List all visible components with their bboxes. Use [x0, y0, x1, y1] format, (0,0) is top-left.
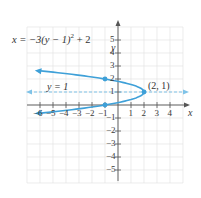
tick-label: 1	[129, 109, 134, 118]
tick-label: 2	[110, 74, 115, 83]
tick-label: −3	[106, 139, 116, 148]
tick-label: 3	[155, 109, 160, 118]
tick-label: 4	[168, 109, 173, 118]
vertex-label: (2, 1)	[148, 80, 170, 91]
tick-label: −6	[33, 109, 43, 118]
y-axis-label: y	[111, 43, 115, 53]
tick-label: −1	[106, 113, 116, 122]
parabola-graph	[0, 0, 201, 198]
tick-label: −2	[106, 126, 116, 135]
tick-label: −4	[106, 152, 116, 161]
tick-label: 3	[110, 61, 115, 70]
symmetry-line-label: y = 1	[47, 81, 68, 92]
equation-label: x = −3(y − 1)2 + 2	[12, 32, 91, 45]
x-axis-label: x	[188, 108, 192, 118]
tick-label: −5	[106, 165, 116, 174]
tick-label: −4	[59, 109, 69, 118]
tick-label: −3	[72, 109, 82, 118]
tick-label: 2	[142, 109, 147, 118]
tick-label: −5	[46, 109, 56, 118]
tick-label: −2	[85, 109, 95, 118]
tick-label: 1	[110, 87, 115, 96]
